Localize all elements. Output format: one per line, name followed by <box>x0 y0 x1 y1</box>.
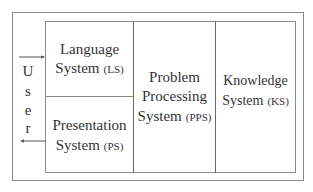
ls-abbr: (LS) <box>104 63 124 75</box>
arrowhead-right-icon <box>41 55 45 59</box>
pps-line3: System <box>138 108 182 124</box>
ps-abbr: (PS) <box>104 140 124 152</box>
output-arrow <box>18 137 48 145</box>
ls-line1: Language <box>55 40 123 59</box>
problem-processing-system-box: Problem Processing System (PPS) <box>134 22 215 172</box>
user-letter: U <box>21 63 35 80</box>
ks-line2: System <box>222 93 263 108</box>
arrowhead-left-icon <box>20 139 24 143</box>
input-arrow <box>18 53 48 61</box>
presentation-system-box: Presentation System (PS) <box>46 97 133 172</box>
user-letter: r <box>21 120 35 137</box>
ps-line1: Presentation <box>52 116 126 135</box>
pps-line2: Processing <box>138 87 212 106</box>
user-letter: s <box>21 83 35 100</box>
user-letter: e <box>21 102 35 119</box>
ps-line2: System <box>56 137 100 153</box>
ks-abbr: (KS) <box>267 95 288 107</box>
ls-line2: System <box>55 60 99 76</box>
pps-abbr: (PPS) <box>186 111 212 123</box>
language-system-box: Language System (LS) <box>46 22 133 96</box>
knowledge-system-box: Knowledge System (KS) <box>216 22 295 172</box>
pps-line1: Problem <box>138 68 212 87</box>
ks-line1: Knowledge <box>222 72 289 90</box>
